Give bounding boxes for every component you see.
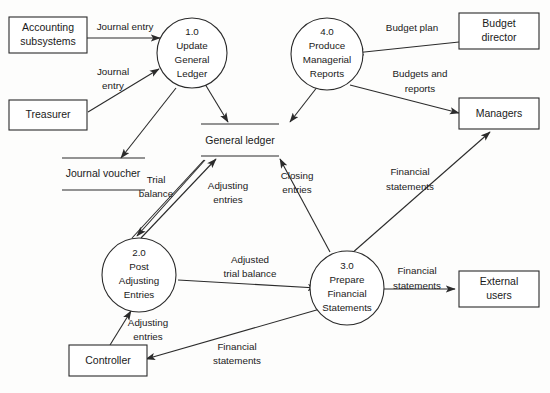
process-label-line3: Reports: [310, 68, 344, 79]
entity-label-line1: Treasurer: [25, 108, 71, 120]
flowlabel-financial-statements-managers: Financial statements: [386, 166, 434, 192]
flowlabel-adjusted-trial-balance: Adjusted trial balance: [224, 254, 277, 279]
flow-label-line2: statements: [213, 355, 261, 366]
flowline-process1-to-general-ledger: [205, 84, 228, 122]
process-label-line2: Managerial: [303, 54, 351, 65]
flowlabel-trial-balance: Trial balance: [139, 174, 174, 199]
flowlabel-financial-statements-external: Financial statements: [393, 265, 441, 291]
flow-label-line2: reports: [405, 83, 436, 94]
process-2-post-adjusting-entries[interactable]: 2.0 Post Adjusting Entries: [102, 238, 176, 312]
process-3-prepare-financial-statements[interactable]: 3.0 Prepare Financial Statements: [310, 251, 384, 325]
flowlabel-adjusting-entries-controller: Adjusting entries: [128, 317, 168, 342]
flow-label-line2: entries: [213, 194, 243, 205]
entity-treasurer[interactable]: Treasurer: [9, 100, 87, 130]
datastore-label: General ledger: [205, 134, 275, 146]
flow-label-line1: Financial: [390, 166, 429, 177]
entity-external-users[interactable]: External users: [459, 271, 539, 307]
flow-label-line2: entry: [102, 80, 124, 91]
flow-label-line2: trial balance: [224, 268, 277, 279]
process-label-line1: Produce: [309, 40, 346, 51]
flowline-financial-statements-managers: [351, 132, 490, 254]
process-label-line3: Entries: [124, 289, 155, 300]
flowline-budget-plan: [355, 42, 459, 53]
process-number: 2.0: [132, 247, 146, 258]
process-label-line1: Post: [129, 261, 149, 272]
entity-label-line1: Budget: [482, 17, 515, 29]
flow-label-line1: Financial: [397, 265, 436, 276]
entity-managers[interactable]: Managers: [459, 98, 539, 129]
flow-label-line2: balance: [139, 188, 174, 199]
flow-label-line2: statements: [393, 280, 441, 291]
process-label-line1: Prepare: [330, 274, 365, 285]
entity-label-line1: Accounting: [22, 21, 74, 33]
datastore-general-ledger[interactable]: General ledger: [201, 124, 279, 156]
process-label-line2: Adjusting: [119, 275, 159, 286]
entity-label-line1: Managers: [476, 107, 523, 119]
entity-accounting-subsystems[interactable]: Accounting subsystems: [9, 17, 87, 53]
entity-label-line1: Controller: [85, 354, 131, 366]
flowlabel-journal-entry-treasurer: Journal entry: [97, 66, 129, 91]
flowlabel-journal-entry-subsystems: Journal entry: [97, 21, 154, 32]
flow-label-line1: Budgets and: [392, 68, 447, 79]
flow-label-line2: statements: [386, 181, 434, 192]
dfd-canvas: Accounting subsystems Treasurer Controll…: [0, 0, 550, 393]
flow-label-line1: Trial: [147, 174, 166, 185]
flowlabel-closing-entries: Closing entries: [281, 170, 314, 195]
flow-label-line2: entries: [133, 331, 163, 342]
dfd-svg: Accounting subsystems Treasurer Controll…: [0, 0, 550, 393]
process-label-line3: Statements: [322, 302, 372, 313]
flow-label-line1: Budget plan: [386, 22, 438, 33]
entity-label-line2: subsystems: [20, 35, 75, 47]
entity-controller[interactable]: Controller: [69, 345, 147, 376]
process-label-line3: Ledger: [177, 68, 208, 79]
flow-label-line1: Journal: [97, 66, 129, 77]
process-label-line1: Update: [176, 40, 208, 51]
flow-label-line2: entries: [282, 184, 312, 195]
process-number: 3.0: [340, 260, 354, 271]
flowline-process2-gl-secondary: [132, 160, 204, 238]
flowlabel-budgets-and-reports: Budgets and reports: [392, 68, 447, 94]
flowlabel-financial-statements-controller: Financial statements: [213, 341, 261, 366]
entity-label-line1: External: [480, 275, 519, 287]
datastore-journal-voucher[interactable]: Journal voucher: [62, 158, 145, 190]
flow-label-line1: Adjusting: [208, 180, 248, 191]
process-label-line2: Financial: [327, 288, 366, 299]
flowlabel-budget-plan: Budget plan: [386, 22, 438, 33]
datastore-label: Journal voucher: [66, 167, 141, 179]
flow-label-line1: Journal entry: [97, 21, 154, 32]
process-1-update-general-ledger[interactable]: 1.0 Update General Ledger: [157, 18, 227, 88]
flowline-process1-to-journal-voucher: [121, 88, 176, 158]
process-number: 1.0: [185, 26, 199, 37]
entity-label-line2: director: [481, 31, 517, 43]
flow-label-line1: Adjusting: [128, 317, 168, 328]
process-number: 4.0: [320, 26, 334, 37]
flow-label-line1: Closing: [281, 170, 314, 181]
entity-label-line2: users: [486, 289, 512, 301]
flowline-process4-general-ledger: [290, 86, 318, 122]
entity-budget-director[interactable]: Budget director: [459, 13, 539, 49]
process-4-produce-managerial-reports[interactable]: 4.0 Produce Managerial Reports: [291, 18, 363, 90]
flowlabel-adjusting-entries-gl: Adjusting entries: [208, 180, 248, 205]
flow-label-line1: Financial: [217, 341, 256, 352]
flow-label-line1: Adjusted: [231, 254, 269, 265]
process-label-line2: General: [175, 54, 210, 65]
flowline-adjusted-trial-balance: [178, 280, 317, 288]
